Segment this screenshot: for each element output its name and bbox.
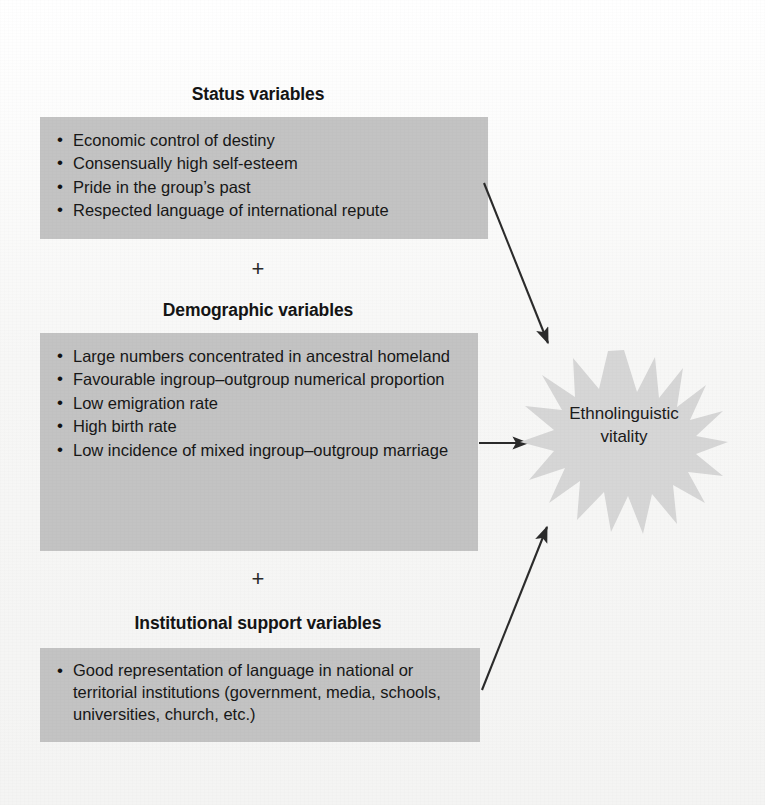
list-item: Respected language of international repu… (56, 199, 474, 221)
list-item: Favourable ingroup–outgroup numerical pr… (56, 368, 464, 390)
list-item: Low incidence of mixed ingroup–outgroup … (56, 439, 464, 461)
list-item: High birth rate (56, 415, 464, 437)
status-variables-list: Economic control of destiny Consensually… (56, 129, 474, 222)
starburst-label-line1: Ethnolinguistic (516, 402, 732, 425)
arrow-institutional-to-vitality (482, 527, 547, 690)
status-variables-heading: Status variables (98, 84, 418, 105)
list-item: Pride in the group’s past (56, 176, 474, 198)
institutional-support-variables-box: Good representation of language in natio… (40, 648, 480, 742)
list-item: Large numbers concentrated in ancestral … (56, 345, 464, 367)
list-item: Consensually high self-esteem (56, 152, 474, 174)
demographic-variables-list: Large numbers concentrated in ancestral … (56, 345, 464, 461)
plus-operator-demographic-institutional: + (243, 568, 273, 590)
list-item: Low emigration rate (56, 392, 464, 414)
ethnolinguistic-vitality-starburst: Ethnolinguistic vitality (516, 346, 732, 538)
demographic-variables-heading: Demographic variables (98, 300, 418, 321)
plus-operator-status-demographic: + (243, 258, 273, 280)
arrow-status-to-vitality (484, 183, 548, 343)
list-item: Economic control of destiny (56, 129, 474, 151)
starburst-label: Ethnolinguistic vitality (516, 402, 732, 449)
starburst-label-line2: vitality (516, 425, 732, 448)
institutional-support-variables-heading: Institutional support variables (98, 613, 418, 634)
institutional-support-variables-list: Good representation of language in natio… (56, 660, 466, 726)
status-variables-box: Economic control of destiny Consensually… (40, 117, 488, 239)
list-item: Good representation of language in natio… (56, 660, 466, 726)
demographic-variables-box: Large numbers concentrated in ancestral … (40, 333, 478, 551)
ethnolinguistic-vitality-diagram: Status variables Economic control of des… (0, 0, 765, 805)
